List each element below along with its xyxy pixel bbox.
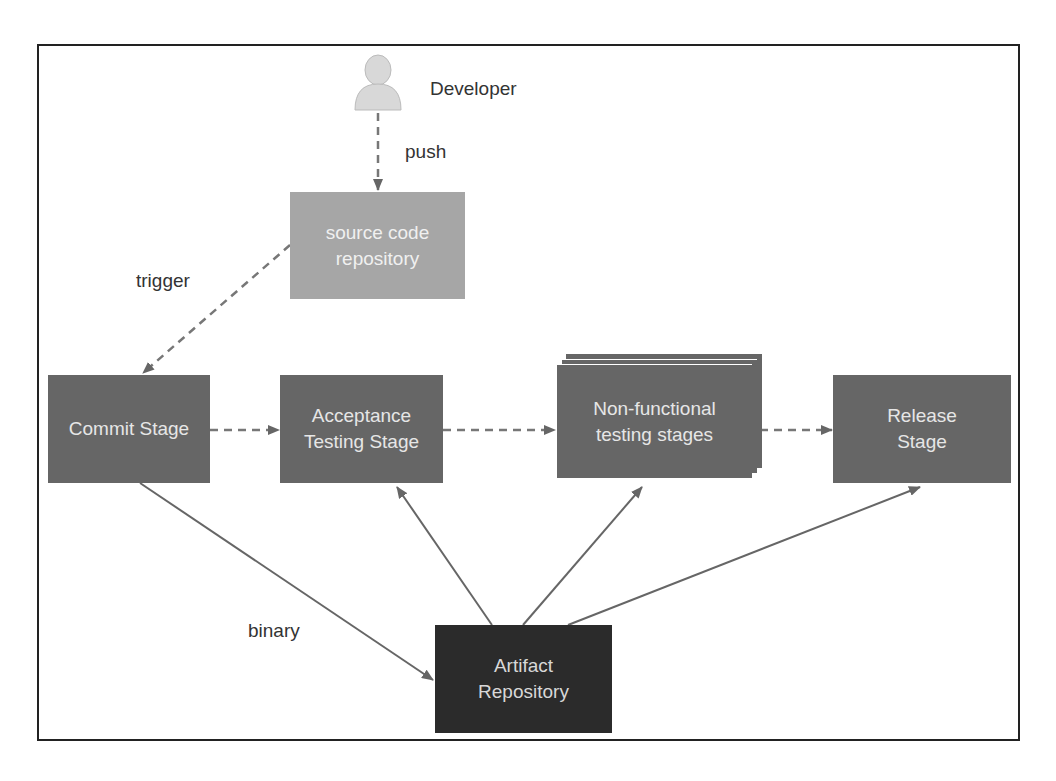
node-label: Commit Stage xyxy=(69,416,189,442)
binary-arrow xyxy=(140,483,433,680)
node-label: Repository xyxy=(478,679,569,705)
artifact-to-nonfunctional-arrow xyxy=(523,487,642,625)
node-label: Testing Stage xyxy=(304,429,419,455)
nonfunctional-stages-node[interactable]: Non-functional testing stages xyxy=(556,364,752,478)
node-label: Non-functional xyxy=(593,396,716,422)
release-stage-node[interactable]: Release Stage xyxy=(833,375,1011,483)
user-icon xyxy=(355,55,401,110)
node-label: Acceptance xyxy=(312,403,411,429)
artifact-repository-node[interactable]: Artifact Repository xyxy=(435,625,612,733)
node-label: repository xyxy=(336,246,419,272)
node-label: Release xyxy=(887,403,957,429)
trigger-label: trigger xyxy=(136,270,190,292)
binary-label: binary xyxy=(248,620,300,642)
actor-label: Developer xyxy=(430,78,517,100)
source-code-repository-node[interactable]: source code repository xyxy=(290,192,465,299)
node-label: source code xyxy=(326,220,430,246)
node-label: Stage xyxy=(897,429,947,455)
artifact-to-acceptance-arrow xyxy=(397,487,492,625)
acceptance-stage-node[interactable]: Acceptance Testing Stage xyxy=(280,375,443,483)
artifact-to-release-arrow xyxy=(568,487,920,625)
push-label: push xyxy=(405,141,446,163)
commit-stage-node[interactable]: Commit Stage xyxy=(48,375,210,483)
node-label: Artifact xyxy=(494,653,553,679)
trigger-arrow xyxy=(143,245,290,373)
node-label: testing stages xyxy=(596,422,713,448)
